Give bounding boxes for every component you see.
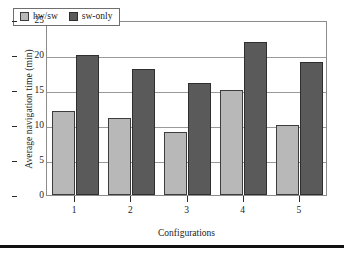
- x-axis-label: Configurations: [46, 228, 327, 238]
- bar-sw-only-3: [188, 83, 211, 195]
- x-axis-tick: [299, 196, 300, 202]
- plot-area: [46, 21, 327, 196]
- y-axis-tick: [12, 91, 17, 92]
- x-axis-tick-label: 1: [59, 205, 89, 215]
- bar-hw-sw-5: [276, 125, 299, 195]
- y-axis-tick-label: 10: [18, 121, 44, 131]
- bar-hw-sw-1: [52, 111, 75, 195]
- y-axis-label: Average navigation time (min): [24, 14, 34, 204]
- x-axis-tick-label: 5: [284, 205, 314, 215]
- y-axis-tick: [12, 21, 17, 22]
- y-axis-tick: [12, 56, 17, 57]
- bar-sw-only-1: [76, 55, 99, 195]
- bar-hw-sw-2: [108, 118, 131, 195]
- x-axis-tick-label: 4: [228, 205, 258, 215]
- y-axis-tick-label: 25: [18, 16, 44, 26]
- bar-sw-only-2: [132, 69, 155, 195]
- bar-hw-sw-3: [164, 132, 187, 195]
- bar-hw-sw-4: [220, 90, 243, 195]
- bar-sw-only-5: [300, 62, 323, 195]
- x-axis-tick: [74, 196, 75, 202]
- y-axis-tick: [12, 126, 17, 127]
- y-axis-tick: [12, 196, 17, 197]
- x-axis-tick-label: 3: [172, 205, 202, 215]
- x-axis-tick: [187, 196, 188, 202]
- legend-swatch-sw-only: [69, 12, 78, 21]
- figure-bottom-rule: [0, 245, 344, 248]
- x-axis-tick: [130, 196, 131, 202]
- y-axis-tick: [12, 161, 17, 162]
- figure: Average navigation time (min) Configurat…: [0, 0, 344, 255]
- y-axis-tick-label: 15: [18, 86, 44, 96]
- bar-sw-only-4: [244, 42, 267, 195]
- y-axis-tick-label: 5: [18, 156, 44, 166]
- y-axis-tick-label: 20: [18, 51, 44, 61]
- x-axis-tick-label: 2: [115, 205, 145, 215]
- x-axis-tick: [243, 196, 244, 202]
- y-axis-tick-label: 0: [18, 191, 44, 201]
- legend-label-sw-only: sw-only: [82, 12, 113, 22]
- legend-entry-sw-only: sw-only: [69, 12, 113, 22]
